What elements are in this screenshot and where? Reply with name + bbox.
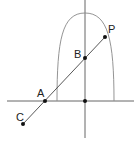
point-p: [103, 35, 107, 39]
label-c: C: [16, 111, 24, 123]
label-p: P: [108, 23, 115, 35]
line-cp: [23, 37, 105, 124]
point-b: [83, 56, 87, 60]
geometry-diagram: P B A C: [0, 0, 139, 146]
origin-point: [83, 99, 87, 103]
point-a: [43, 99, 47, 103]
label-a: A: [37, 87, 45, 99]
label-b: B: [74, 48, 81, 60]
